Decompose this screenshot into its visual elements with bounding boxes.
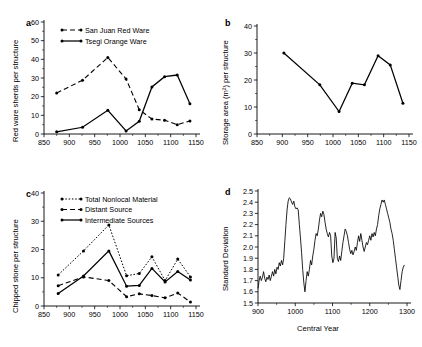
panel-d: d Standard Deviation Central Year 1.51.6… [211,173,422,347]
svg-text:850: 850 [38,310,50,319]
svg-text:1.9: 1.9 [243,254,253,263]
series-2 [55,74,191,134]
svg-text:1000: 1000 [287,307,303,316]
data-point [81,79,84,82]
svg-text:950: 950 [89,310,101,319]
data-point [55,130,58,133]
svg-text:900: 900 [63,138,75,147]
legend-item: Distant Source [61,205,133,214]
panel-d-letter: d [225,187,231,197]
data-point [150,118,153,121]
svg-text:1000: 1000 [112,310,128,319]
data-point [282,52,285,55]
panel-c-xtick-labels: 8509009501000105011001150 [38,310,204,319]
data-point [138,292,141,295]
svg-text:50: 50 [31,36,39,45]
data-point [82,249,85,252]
svg-text:1000: 1000 [325,138,341,147]
data-point [176,258,179,261]
data-point [81,126,84,129]
data-point [57,292,60,295]
data-point [150,294,153,297]
data-point [351,82,354,85]
svg-text:850: 850 [251,138,263,147]
svg-text:1.8: 1.8 [243,265,253,274]
data-point [125,274,128,277]
svg-text:20: 20 [244,76,252,85]
panel-b-plot-area [282,52,404,114]
panel-d-ylabel: Standard Deviation [221,226,230,291]
data-point [318,83,321,86]
legend-item: San Juan Red Ware [61,26,150,35]
svg-text:30: 30 [31,217,39,226]
legend-item: Total Nonlocal Material [61,195,159,204]
panel-c-ylabel: Chipped stone per structure [11,219,20,313]
svg-text:950: 950 [89,138,101,147]
series-1 [258,198,404,292]
data-point [55,91,58,94]
data-point [189,301,192,304]
series-3 [57,249,192,295]
data-point [176,123,179,126]
data-point [338,110,341,113]
panel-c-ytick-labels: 010203040 [31,189,39,311]
data-point [150,255,153,258]
data-point [138,284,141,287]
legend-label: Tsegi Orange Ware [85,37,147,46]
data-point [389,63,392,66]
svg-text:2.0: 2.0 [243,243,253,252]
panel-b-ytick-labels: 010203040 [244,22,252,139]
svg-text:20: 20 [31,245,39,254]
svg-text:1300: 1300 [399,307,415,316]
panel-d-xtick-labels: 9001000110012001300 [252,307,415,316]
data-point [176,270,179,273]
svg-text:850: 850 [38,138,50,147]
data-point [363,83,366,86]
svg-text:1050: 1050 [137,310,153,319]
svg-text:40: 40 [31,55,39,64]
svg-text:1100: 1100 [325,307,340,316]
svg-text:1100: 1100 [163,310,178,319]
svg-text:1.6: 1.6 [243,287,253,296]
svg-text:40: 40 [31,189,39,198]
svg-text:1150: 1150 [188,310,203,319]
svg-text:40: 40 [244,22,252,31]
data-point [189,279,192,282]
panel-a-xtick-labels: 8509009501000105011001150 [38,138,204,147]
svg-text:2.2: 2.2 [243,220,253,229]
svg-text:1.7: 1.7 [243,276,253,285]
data-point [176,74,179,77]
svg-text:950: 950 [302,138,314,147]
svg-text:900: 900 [63,310,75,319]
svg-text:1150: 1150 [401,138,416,147]
panel-a-ylabel: Red ware sherds per structure [11,40,20,142]
legend-label: Intermediate Sources [85,216,154,225]
data-point [125,295,128,298]
svg-text:30: 30 [244,49,252,58]
svg-text:10: 10 [244,103,252,112]
data-point [163,119,166,122]
svg-text:1050: 1050 [137,138,153,147]
panel-c: c Chipped stone per structure 010203040 … [0,173,211,347]
data-point [138,120,141,123]
panel-b-axes [254,24,413,137]
legend-item: Tsegi Orange Ware [61,37,147,46]
svg-text:900: 900 [276,138,288,147]
data-point [57,273,60,276]
data-point [138,272,141,275]
series-1 [55,56,191,126]
series-1 [282,52,404,114]
svg-text:2.1: 2.1 [243,231,253,240]
svg-text:1150: 1150 [188,138,203,147]
svg-text:900: 900 [252,307,264,316]
panel-a-ytick-labels: 0102030405060 [31,18,39,139]
data-point [125,77,128,80]
data-point [189,275,192,278]
legend-label: San Juan Red Ware [85,26,149,35]
figure-four-panel: a Red ware sherds per structure 01020304… [0,0,422,347]
data-point [164,296,167,299]
data-point [176,292,179,295]
data-point [107,249,110,252]
data-point [150,267,153,270]
svg-text:1100: 1100 [376,138,391,147]
